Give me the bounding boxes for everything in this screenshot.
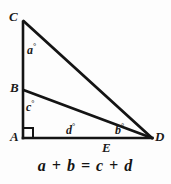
vertex-label-e: E (102, 141, 111, 154)
angle-label-b: b° (115, 123, 124, 136)
right-angle-marker (23, 128, 33, 138)
degree-symbol-d: ° (72, 122, 75, 131)
equation-caption: a + b = c + d (0, 157, 171, 175)
degree-symbol-b: ° (121, 122, 124, 131)
angle-label-c: c° (26, 100, 35, 113)
angle-label-a: a° (27, 43, 36, 56)
segment-BD (24, 90, 153, 138)
angle-label-d: d° (66, 123, 75, 136)
vertex-label-c: C (9, 10, 18, 23)
degree-symbol-a: ° (33, 42, 36, 51)
geometry-figure: C B A E D a° c° d° b° a + b = c + d (0, 0, 171, 184)
degree-symbol-c: ° (31, 99, 34, 108)
vertex-label-a: A (10, 130, 19, 143)
vertex-label-b: B (10, 81, 19, 94)
vertex-label-d: D (155, 130, 164, 143)
segment-CD (24, 21, 153, 138)
